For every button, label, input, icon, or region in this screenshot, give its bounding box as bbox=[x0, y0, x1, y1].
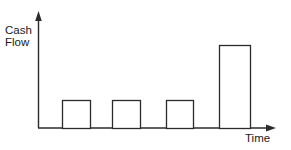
y-axis-group bbox=[35, 11, 42, 128]
cash-flow-diagram: Cash Flow Time bbox=[0, 0, 291, 150]
y-axis-label-line1: Cash bbox=[5, 24, 32, 36]
x-axis-label: Time bbox=[245, 132, 270, 144]
diagram-canvas: Cash Flow Time bbox=[0, 0, 291, 150]
bar-2 bbox=[113, 101, 141, 129]
bar-3 bbox=[167, 101, 194, 129]
bar-series bbox=[63, 46, 251, 129]
bar-1 bbox=[63, 101, 91, 129]
bar-4 bbox=[220, 46, 251, 129]
y-axis-label-line2: Flow bbox=[5, 36, 30, 48]
y-axis-arrowhead bbox=[35, 11, 42, 21]
x-axis-arrowhead bbox=[266, 125, 276, 132]
